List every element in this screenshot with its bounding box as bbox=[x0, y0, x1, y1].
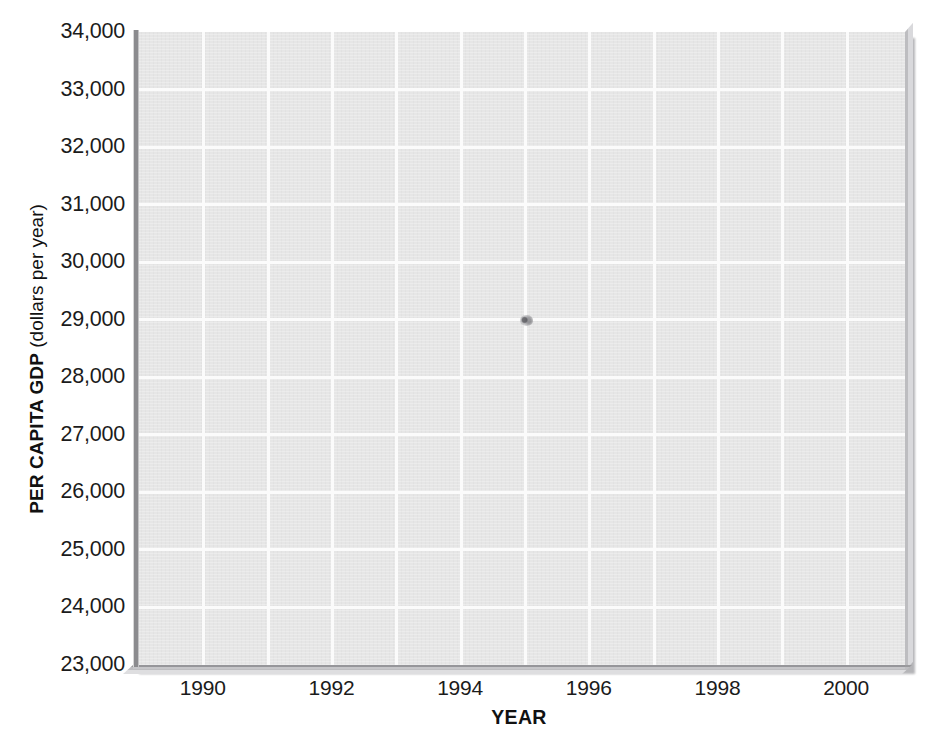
plot-panel-bottom-edge bbox=[133, 665, 905, 669]
y-axis-tick-label: 33,000 bbox=[0, 77, 125, 102]
gridline-horizontal bbox=[133, 146, 905, 149]
gridline-horizontal bbox=[133, 433, 905, 436]
x-axis-tick-label: 1998 bbox=[694, 676, 740, 700]
x-axis-title: YEAR bbox=[133, 706, 905, 729]
x-axis-tick-label: 1994 bbox=[437, 676, 483, 700]
y-axis-tick-label: 25,000 bbox=[0, 537, 125, 562]
y-axis-tick-label: 27,000 bbox=[0, 422, 125, 447]
y-axis-tick-label: 28,000 bbox=[0, 364, 125, 389]
y-axis-tick-label: 26,000 bbox=[0, 479, 125, 504]
y-axis-tick-label: 29,000 bbox=[0, 307, 125, 332]
gridline-horizontal bbox=[133, 376, 905, 379]
gridline-vertical bbox=[202, 32, 205, 665]
gridline-vertical bbox=[653, 32, 656, 665]
y-axis-tick-label: 24,000 bbox=[0, 594, 125, 619]
y-axis-tick-label: 31,000 bbox=[0, 192, 125, 217]
y-axis-title-bold: PER CAPITA GDP bbox=[26, 353, 47, 514]
y-axis-tick-label: 23,000 bbox=[0, 652, 125, 677]
gridline-horizontal bbox=[133, 318, 905, 321]
y-axis-tick-label: 34,000 bbox=[0, 19, 125, 44]
x-axis-tick-label: 1990 bbox=[180, 676, 226, 700]
y-axis-title: PER CAPITA GDP (dollars per year) bbox=[26, 39, 48, 679]
gridline-vertical bbox=[331, 32, 334, 665]
y-axis-tick-label: 32,000 bbox=[0, 134, 125, 159]
gridline-vertical bbox=[588, 32, 591, 665]
panel-grain-texture bbox=[133, 32, 905, 665]
gridline-vertical bbox=[267, 32, 270, 665]
gridline-horizontal bbox=[133, 491, 905, 494]
gridline-vertical bbox=[524, 32, 527, 665]
gridline-horizontal bbox=[133, 261, 905, 264]
gridline-vertical bbox=[717, 32, 720, 665]
gridline-vertical bbox=[781, 32, 784, 665]
gridline-horizontal bbox=[133, 606, 905, 609]
gridline-horizontal bbox=[133, 88, 905, 91]
plot-area bbox=[133, 32, 905, 665]
ink-smudge-artifact bbox=[520, 315, 533, 326]
chart-figure: 34,00033,00032,00031,00030,00029,00028,0… bbox=[0, 0, 931, 744]
y-axis-title-light: (dollars per year) bbox=[26, 204, 47, 353]
x-axis-tick-label: 2000 bbox=[823, 676, 869, 700]
x-axis-tick-label: 1996 bbox=[566, 676, 612, 700]
gridline-horizontal bbox=[133, 203, 905, 206]
gridline-horizontal bbox=[133, 548, 905, 551]
gridline-vertical bbox=[460, 32, 463, 665]
gridline-vertical bbox=[846, 32, 849, 665]
x-axis-tick-label: 1992 bbox=[308, 676, 354, 700]
y-axis-tick-label: 30,000 bbox=[0, 249, 125, 274]
y-axis-tick-labels: 34,00033,00032,00031,00030,00029,00028,0… bbox=[0, 0, 125, 744]
y-axis-line bbox=[133, 30, 139, 667]
gridline-vertical bbox=[395, 32, 398, 665]
plot-panel-right-bevel bbox=[905, 23, 913, 671]
